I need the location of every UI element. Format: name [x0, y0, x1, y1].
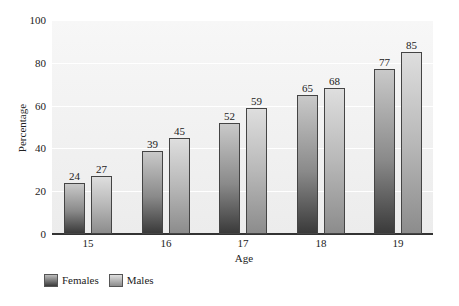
y-tick-label: 0 — [18, 228, 46, 240]
legend-label-males: Males — [127, 274, 154, 286]
data-label: 52 — [215, 110, 245, 122]
y-tick-label: 20 — [18, 185, 46, 197]
bar-males-18 — [324, 88, 345, 234]
bar-males-19 — [401, 52, 422, 234]
bar-males-16 — [169, 138, 190, 234]
data-label: 59 — [242, 95, 272, 107]
data-label: 24 — [60, 170, 90, 182]
bar-females-18 — [297, 95, 318, 234]
legend-item-males: Males — [109, 274, 154, 287]
data-label: 85 — [397, 39, 427, 51]
x-tick-label: 15 — [73, 237, 103, 249]
legend: Females Males — [44, 272, 164, 288]
data-label: 39 — [138, 138, 168, 150]
data-label: 68 — [320, 75, 350, 87]
data-label: 27 — [87, 163, 117, 175]
x-tick-label: 16 — [151, 237, 181, 249]
data-label: 45 — [165, 125, 195, 137]
y-tick-label: 100 — [18, 14, 46, 26]
legend-swatch-males — [109, 274, 123, 287]
x-tick-label: 18 — [306, 237, 336, 249]
x-axis-label: Age — [224, 252, 264, 264]
bar-females-15 — [64, 183, 85, 234]
bar-females-17 — [219, 123, 240, 234]
bar-males-17 — [246, 108, 267, 234]
x-tick-label: 17 — [228, 237, 258, 249]
legend-item-females: Females — [44, 274, 99, 287]
legend-swatch-females — [44, 274, 58, 287]
y-tick-label: 80 — [18, 57, 46, 69]
bar-females-19 — [374, 69, 395, 234]
gridline — [52, 20, 433, 21]
bar-males-15 — [91, 176, 112, 234]
data-label: 77 — [370, 56, 400, 68]
x-tick-label: 19 — [383, 237, 413, 249]
y-axis-label: Percentage — [16, 98, 28, 158]
legend-label-females: Females — [62, 274, 99, 286]
data-label: 65 — [293, 82, 323, 94]
bar-females-16 — [142, 151, 163, 234]
